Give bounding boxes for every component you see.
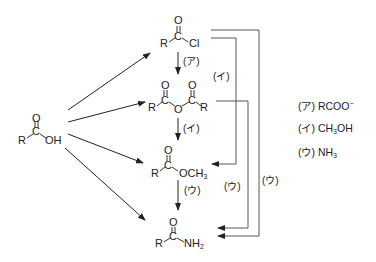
anhydride-r2: R	[200, 102, 208, 113]
legend-key: (イ)	[298, 122, 315, 134]
label-u-1: (ウ)	[184, 186, 201, 196]
ester-o: O	[164, 145, 173, 156]
anhydride-o2: O	[188, 80, 197, 91]
label-i-2: (イ)	[183, 124, 200, 134]
acid-c: C	[32, 126, 40, 137]
anhydride-o1: O	[161, 80, 170, 91]
ester-r: R	[151, 168, 159, 179]
legend-reagent: NH	[318, 146, 333, 158]
anhydride-c2: C	[188, 95, 196, 106]
anhydride-r1: R	[148, 102, 156, 113]
chloride-c: C	[174, 31, 182, 42]
label-u-3: (ウ)	[262, 176, 279, 186]
chloride-cl: Cl	[189, 38, 199, 49]
label-a: (ア)	[183, 57, 200, 67]
amide-nh: NH	[184, 237, 200, 249]
acid-oh: OH	[45, 135, 62, 146]
amide-o: O	[169, 217, 178, 228]
legend-item-a: (ア) RCOO−	[298, 98, 354, 112]
legend-reagent: RCOO	[318, 100, 350, 112]
acid-carbonyl-o: O	[32, 113, 41, 124]
anhydride-c1: C	[161, 95, 169, 106]
legend-reagent: CH	[318, 122, 333, 134]
amide-r: R	[155, 238, 163, 249]
acid-r: R	[18, 135, 26, 146]
legend-key: (ア)	[298, 100, 315, 112]
chloride-r: R	[160, 38, 168, 49]
ester-och: OCH	[179, 167, 203, 179]
anhydride-bridge-o: O	[174, 104, 183, 115]
legend-charge: −	[349, 100, 353, 107]
chloride-o: O	[174, 15, 183, 26]
amide-sub: 2	[200, 243, 204, 250]
amide-nh2: NH2	[184, 238, 204, 252]
legend-item-u: (ウ) NH3	[298, 147, 337, 161]
ester-och3: OCH3	[179, 168, 207, 182]
amide-c: C	[169, 231, 177, 242]
legend-item-i: (イ) CH3OH	[298, 123, 353, 137]
legend-tail: OH	[337, 122, 353, 134]
legend-sub: 3	[333, 152, 337, 159]
ester-sub: 3	[203, 173, 207, 180]
ester-c: C	[164, 160, 172, 171]
legend-key: (ウ)	[298, 146, 315, 158]
label-i-1: (イ)	[213, 72, 230, 82]
label-u-2: (ウ)	[224, 182, 241, 192]
